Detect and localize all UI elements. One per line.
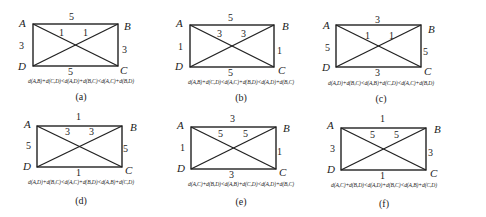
panel-f: A B C D 1 1 3 3 5 5 d(A,C)+d(B,D)<d(A,D)… — [320, 105, 482, 213]
edge-ad-weight: 1 — [180, 143, 185, 153]
edge-ad-weight: 5 — [325, 43, 330, 53]
edge-ab-weight: 5 — [228, 13, 233, 23]
vertex-a: A — [177, 120, 184, 131]
vertex-c: C — [424, 66, 431, 77]
edge-bd-weight: 5 — [394, 130, 399, 140]
edge-ab-weight: 3 — [375, 15, 380, 25]
panel-c: A B C D 3 3 5 5 1 1 d(A,D)+d(B,C)<d(A,B)… — [320, 0, 482, 108]
edge-cd-weight: 1 — [76, 168, 81, 178]
vertex-c: C — [430, 168, 437, 179]
inequality-caption: d(A,B)+d(C,D)<d(A,D)+d(B,C)<d(A,C)+d(B,D… — [0, 79, 162, 85]
edge-ab-weight: 5 — [69, 12, 74, 22]
panel-label: (f) — [303, 199, 465, 209]
edge-ad-weight: 1 — [178, 42, 183, 52]
panel-a: A B C D 5 5 3 3 1 1 d(A,B)+d(C,D)<d(A,D)… — [0, 0, 162, 108]
inequality-caption: d(A,C)+d(B,D)<d(A,B)+d(C,D)<d(A,D)+d(B,C… — [160, 182, 322, 188]
edge-ac-weight: 1 — [59, 28, 64, 38]
edge-bd-weight: 3 — [89, 127, 94, 137]
vertex-b: B — [283, 123, 290, 134]
inequality-caption: d(A,D)+d(B,C)<d(A,C)+d(B,D)<d(A,B)+d(C,D… — [0, 180, 162, 186]
edge-bc-weight: 5 — [423, 47, 428, 57]
vertex-a: A — [19, 18, 26, 29]
vertex-b: B — [428, 24, 435, 35]
edge-bc-weight: 1 — [277, 147, 282, 157]
vertex-c: C — [125, 165, 132, 176]
vertex-b: B — [130, 122, 137, 133]
rectangle-graph — [320, 105, 482, 213]
vertex-d: D — [23, 161, 31, 172]
vertex-a: A — [323, 20, 330, 31]
rectangle-graph — [320, 0, 482, 108]
edge-bd-weight: 3 — [241, 29, 246, 39]
edge-ab-weight: 1 — [380, 114, 385, 124]
edge-ad-weight: 5 — [26, 141, 31, 151]
vertex-d: D — [327, 164, 335, 175]
vertex-a: A — [24, 119, 31, 130]
vertex-c: C — [278, 65, 285, 76]
edge-ad-weight: 3 — [19, 41, 24, 51]
vertex-d: D — [322, 62, 330, 73]
vertex-d: D — [175, 61, 183, 72]
inequality-caption: d(A,D)+d(B,C)<d(A,B)+d(C,D)<d(A,C)+d(B,D… — [300, 81, 462, 87]
vertex-d: D — [177, 163, 185, 174]
edge-ac-weight: 3 — [217, 29, 222, 39]
panel-e: A B C D 3 3 1 1 5 5 d(A,C)+d(B,D)<d(A,B)… — [160, 105, 322, 213]
edge-ac-weight: 3 — [65, 127, 70, 137]
edge-ad-weight: 3 — [330, 144, 335, 154]
panel-label: (d) — [0, 196, 162, 206]
edge-ac-weight: 5 — [218, 129, 223, 139]
edge-cd-weight: 1 — [380, 171, 385, 181]
panel-d: A B C D 1 1 5 5 3 3 d(A,D)+d(B,C)<d(A,C)… — [0, 105, 162, 213]
edge-cd-weight: 5 — [68, 67, 73, 77]
panel-label: (b) — [160, 93, 322, 103]
edge-ab-weight: 3 — [230, 114, 235, 124]
vertex-c: C — [279, 167, 286, 178]
vertex-b: B — [124, 21, 131, 32]
edge-bc-weight: 1 — [277, 46, 282, 56]
vertex-a: A — [176, 18, 183, 29]
edge-ab-weight: 1 — [76, 112, 81, 122]
edge-bc-weight: 5 — [123, 144, 128, 154]
edge-bd-weight: 1 — [389, 31, 394, 41]
edge-ac-weight: 1 — [365, 31, 370, 41]
vertex-b: B — [434, 124, 441, 135]
edge-bc-weight: 3 — [122, 45, 127, 55]
panel-label: (e) — [160, 197, 322, 207]
panel-label: (a) — [0, 92, 162, 102]
panel-b: A B C D 5 5 1 1 3 3 d(A,B)+d(C,D)<d(A,C)… — [160, 0, 322, 108]
edge-bc-weight: 3 — [428, 148, 433, 158]
vertex-a: A — [327, 120, 334, 131]
edge-bd-weight: 1 — [83, 28, 88, 38]
inequality-caption: d(A,C)+d(B,D)<d(A,D)+d(B,C)<d(A,B)+d(C,D… — [303, 183, 465, 189]
edge-ac-weight: 5 — [370, 130, 375, 140]
edge-bd-weight: 5 — [243, 129, 248, 139]
vertex-b: B — [282, 21, 289, 32]
edge-cd-weight: 3 — [229, 170, 234, 180]
inequality-caption: d(A,B)+d(C,D)<d(A,C)+d(B,D)<d(A,D)+d(B,C… — [160, 80, 322, 86]
vertex-d: D — [18, 61, 26, 72]
edge-cd-weight: 3 — [375, 68, 380, 78]
vertex-c: C — [120, 65, 127, 76]
panel-label: (c) — [300, 94, 462, 104]
edge-cd-weight: 5 — [228, 68, 233, 78]
